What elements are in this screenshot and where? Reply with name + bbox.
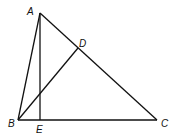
point-label-d: D [79, 38, 86, 49]
point-label-b: B [8, 118, 15, 129]
segment-ab [18, 13, 40, 120]
segment-ac [40, 13, 157, 120]
point-label-c: C [161, 118, 169, 129]
segment-bd [18, 48, 78, 120]
point-label-a: A [26, 6, 34, 17]
point-labels: ABCDE [8, 6, 169, 135]
geometry-diagram: ABCDE [0, 0, 181, 139]
segments [18, 13, 157, 120]
point-label-e: E [36, 124, 43, 135]
